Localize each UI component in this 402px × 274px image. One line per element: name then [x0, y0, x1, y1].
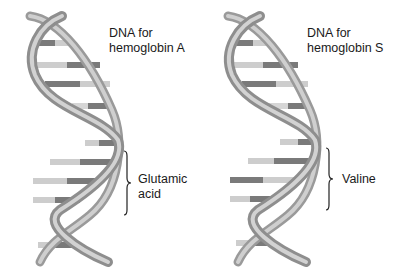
panel-title: DNA for hemoglobin S	[307, 26, 383, 56]
amino-acid-label: Valine	[342, 172, 376, 187]
amino-acid-label: Glutamic acid	[138, 172, 187, 202]
right-brace-icon	[324, 147, 334, 211]
title-line-1: DNA for	[307, 26, 383, 41]
label-line-1: Valine	[342, 172, 376, 187]
right-brace-icon	[122, 150, 132, 216]
label-line-2: acid	[138, 187, 187, 202]
title-line-1: DNA for	[109, 26, 185, 41]
panel-hemoglobin-s: DNA for hemoglobin S Valine	[200, 0, 401, 274]
base-pairs	[33, 40, 115, 248]
panel-hemoglobin-a: DNA for hemoglobin A Glutamic acid	[0, 0, 201, 274]
panel-title: DNA for hemoglobin A	[109, 26, 185, 56]
title-line-2: hemoglobin S	[307, 41, 383, 56]
title-line-2: hemoglobin A	[109, 41, 185, 56]
label-line-1: Glutamic	[138, 172, 187, 187]
base-pairs	[230, 40, 313, 246]
